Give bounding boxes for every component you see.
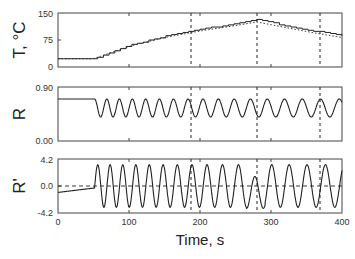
rprime-series — [58, 165, 342, 209]
p1-tick-75: 75 — [43, 35, 53, 45]
chart-figure: 150 75 0 0.90 0.00 4.2 0.0 -4.2 0 100 20… — [0, 0, 355, 259]
p3-tick-neg42: -4.2 — [37, 208, 53, 218]
p1-tick-150: 150 — [38, 9, 53, 19]
p3-tick-42: 4.2 — [40, 155, 53, 165]
panel-r-frame — [58, 87, 342, 141]
temperature-series — [58, 19, 342, 58]
x-axis-label: Time, s — [176, 231, 225, 248]
p1-tick-0: 0 — [48, 62, 53, 72]
panel-temperature-frame — [58, 13, 342, 67]
x-tick-300: 300 — [263, 217, 278, 227]
p2-tick-000: 0.00 — [35, 136, 53, 146]
r-series — [58, 99, 342, 117]
x-tick-100: 100 — [121, 217, 136, 227]
p2-tick-090: 0.90 — [35, 83, 53, 93]
x-tick-400: 400 — [334, 217, 349, 227]
x-tick-0: 0 — [55, 217, 60, 227]
x-tick-200: 200 — [192, 217, 207, 227]
p3-tick-0: 0.0 — [40, 181, 53, 191]
y-label-temperature: T, °C — [10, 21, 29, 58]
y-label-r: R — [10, 108, 29, 120]
y-label-rprime: R' — [10, 178, 29, 194]
